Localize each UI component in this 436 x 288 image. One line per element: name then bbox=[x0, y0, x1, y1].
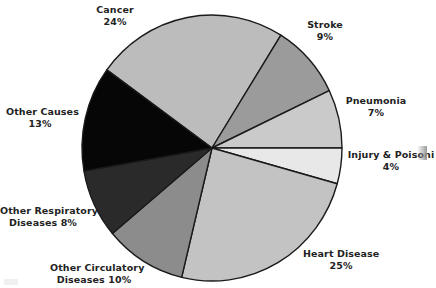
label-other-causes-pct: 13% bbox=[6, 118, 74, 130]
label-heart-name: Heart Disease bbox=[303, 248, 379, 260]
edge-shadow bbox=[417, 146, 427, 160]
label-pneumonia-name: Pneumonia bbox=[344, 95, 408, 107]
label-other-causes-name: Other Causes bbox=[6, 106, 74, 118]
label-stroke-name: Stroke bbox=[305, 19, 345, 31]
pie-slices bbox=[82, 15, 342, 281]
corner-artifact bbox=[4, 279, 18, 285]
label-other-circ-line1: Other Circulatory bbox=[50, 262, 138, 274]
label-pneumonia-pct: 7% bbox=[344, 107, 408, 119]
label-injury-pct: 4% bbox=[346, 161, 436, 173]
label-cancer-name: Cancer bbox=[92, 4, 138, 16]
label-heart-disease: Heart Disease 25% bbox=[303, 248, 379, 272]
label-pneumonia: Pneumonia 7% bbox=[344, 95, 408, 119]
label-stroke: Stroke 9% bbox=[305, 19, 345, 43]
label-other-circ-line2: Diseases 10% bbox=[50, 274, 138, 286]
label-other-resp-line2: Diseases 8% bbox=[0, 217, 86, 229]
label-other-resp-line1: Other Respiratory bbox=[0, 205, 86, 217]
label-stroke-pct: 9% bbox=[305, 31, 345, 43]
label-other-circulatory: Other Circulatory Diseases 10% bbox=[50, 262, 138, 286]
label-cancer-pct: 24% bbox=[92, 16, 138, 28]
label-cancer: Cancer 24% bbox=[92, 4, 138, 28]
label-heart-pct: 25% bbox=[303, 260, 379, 272]
label-other-respiratory: Other Respiratory Diseases 8% bbox=[0, 205, 86, 229]
label-other-causes: Other Causes 13% bbox=[6, 106, 74, 130]
